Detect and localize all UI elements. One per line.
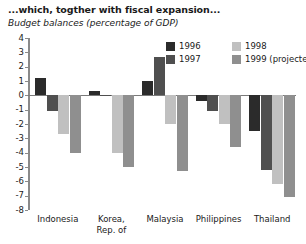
y-tick-label: -5 (2, 163, 24, 172)
y-tick-mark (25, 153, 28, 154)
y-tick-mark (25, 52, 28, 53)
bar (58, 95, 69, 134)
bar (123, 95, 134, 167)
y-tick-mark (25, 181, 28, 182)
bar (196, 95, 207, 101)
y-tick-mark (25, 81, 28, 82)
y-tick-label: -3 (2, 134, 24, 143)
bar (70, 95, 81, 152)
y-tick-mark (25, 95, 28, 96)
bar (249, 95, 260, 131)
y-tick-label: -4 (2, 148, 24, 157)
y-tick-mark (25, 167, 28, 168)
y-tick-mark (25, 110, 28, 111)
y-tick-label: 3 (2, 48, 24, 57)
y-tick-label: 1 (2, 77, 24, 86)
y-tick-mark (25, 210, 28, 211)
y-tick-label: 0 (2, 91, 24, 100)
bar-group (142, 38, 188, 210)
y-tick-label: -6 (2, 177, 24, 186)
bar (89, 91, 100, 95)
bar (261, 95, 272, 170)
y-tick-label: 4 (2, 34, 24, 43)
bar (219, 95, 230, 124)
y-tick-label: 2 (2, 62, 24, 71)
y-tick-label: -1 (2, 105, 24, 114)
budget-balances-chart: ...which, togther with fiscal expansion.… (0, 0, 306, 244)
bar (154, 57, 165, 96)
bar-group (89, 38, 135, 210)
y-tick-label: -2 (2, 120, 24, 129)
x-category-label-line: Rep. of (77, 225, 145, 236)
bar-group (249, 38, 295, 210)
bar (230, 95, 241, 147)
bar-group (196, 38, 242, 210)
chart-title: ...which, togther with fiscal expansion.… (8, 4, 220, 15)
y-tick-mark (25, 67, 28, 68)
bar (207, 95, 218, 111)
plot-area: 43210-1-2-3-4-5-6-7-8 (28, 38, 296, 210)
bar (177, 95, 188, 171)
y-axis-line (28, 38, 30, 210)
y-tick-mark (25, 124, 28, 125)
bar (165, 95, 176, 124)
y-tick-label: -7 (2, 191, 24, 200)
bar-group (35, 38, 81, 210)
bar (142, 81, 153, 95)
x-category-label: Thailand (238, 214, 306, 225)
y-tick-label: -8 (2, 206, 24, 215)
bar (47, 95, 58, 111)
bar (112, 95, 123, 152)
bar (100, 95, 111, 96)
bar (272, 95, 283, 184)
chart-subtitle: Budget balances (percentage of GDP) (8, 18, 178, 28)
x-category-label-line: Thailand (238, 214, 306, 225)
bar (35, 78, 46, 95)
bar (284, 95, 295, 197)
y-tick-mark (25, 196, 28, 197)
y-tick-mark (25, 138, 28, 139)
y-tick-mark (25, 38, 28, 39)
